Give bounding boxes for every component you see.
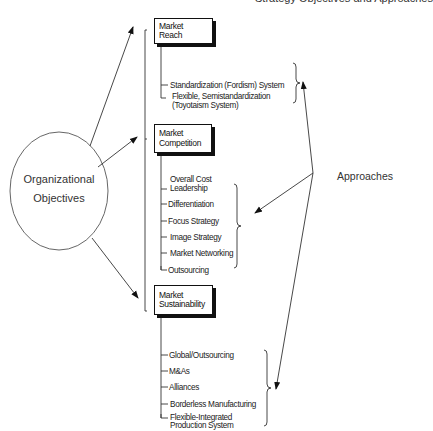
reach-item-fordism: Standardization (Fordism) System (170, 81, 284, 90)
competition-item-image-strategy: Image Strategy (170, 233, 221, 242)
market-sustainability-box: Market Sustainability (154, 285, 213, 315)
reach-item-flexible: Flexible, Semistandardization (172, 92, 270, 101)
competition-item-leadership: Leadership (170, 184, 208, 193)
sustainability-item-global-outsourcing: Global/Outsourcing (169, 351, 234, 360)
center-label-line1: Organizational (14, 170, 104, 189)
market-competition-box: Market Competition (154, 124, 212, 153)
reach-item-toyotaism: (Toyotaism System) (172, 101, 238, 110)
competition-item-outsourcing: Outsourcing (168, 266, 209, 275)
competition-item-overall-cost: Overall Cost (170, 175, 211, 184)
sustainability-item-alliances: Alliances (169, 383, 199, 392)
competition-item-focus-strategy: Focus Strategy (168, 217, 219, 226)
approaches-label: Approaches (337, 170, 393, 182)
organizational-objectives-label: Organizational Objectives (14, 170, 104, 208)
center-label-line2: Objectives (14, 189, 104, 208)
sustainability-item-production-system: Production System (170, 421, 234, 430)
market-reach-label: Market Reach (159, 22, 208, 41)
market-competition-label-2: Competition (159, 139, 201, 149)
sustainability-item-borderless-manufacturing: Borderless Manufacturing (170, 400, 256, 409)
market-sustainability-label-2: Sustainability (159, 300, 205, 310)
competition-item-differentiation: Differentiation (168, 200, 214, 209)
competition-item-market-networking: Market Networking (170, 249, 233, 258)
market-reach-box: Market Reach (154, 18, 213, 44)
sustainability-item-mas: M&As (169, 367, 190, 376)
